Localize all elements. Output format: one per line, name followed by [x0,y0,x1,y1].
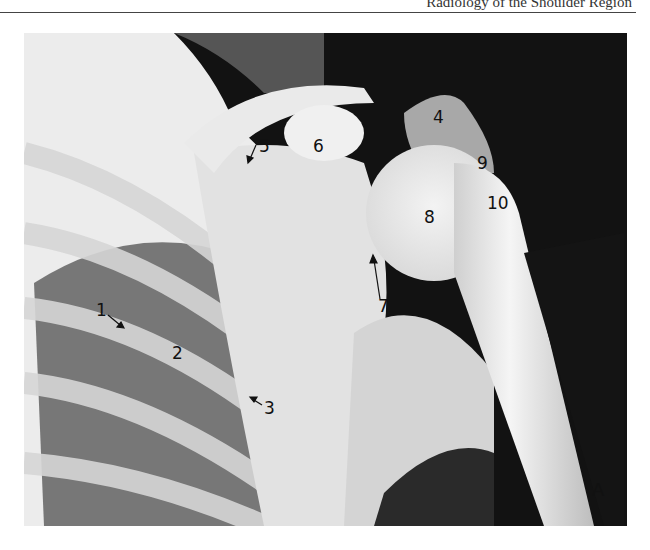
label-6: 6 [313,138,324,155]
label-7: 7 [378,298,389,315]
label-3: 3 [264,400,275,417]
label-4: 4 [433,109,444,126]
label-9: 9 [477,155,488,172]
panel-letter: A [592,481,604,499]
label-2: 2 [172,345,183,362]
running-head: Radiology of the Shoulder Region [426,0,632,11]
label-1: 1 [96,302,107,319]
shoulder-radiograph: 1 2 3 4 5 6 7 8 9 10 A [24,33,627,526]
label-10: 10 [487,195,509,212]
label-8: 8 [424,209,435,226]
label-5: 5 [259,138,270,155]
header-rule [0,12,636,13]
radiograph-image [24,33,627,526]
